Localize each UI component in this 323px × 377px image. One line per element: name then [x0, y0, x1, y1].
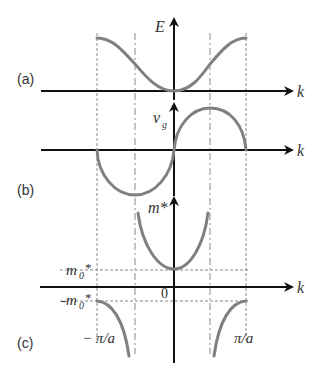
svg-text:0: 0: [79, 300, 84, 311]
m0-star-label: m 0 *: [66, 260, 92, 281]
group-velocity-curve: [97, 108, 246, 195]
neg-pi-over-a-label: − π/a: [82, 330, 115, 346]
k-axis-label-b: k: [297, 142, 305, 159]
band-structure-figure: E k (a) v g k (b) m* k (c) m 0 * -m 0 * …: [0, 0, 323, 377]
panel-c: m* k (c) m 0 * -m 0 * 0 − π/a π/a: [17, 198, 305, 363]
svg-text:*: *: [85, 290, 92, 305]
panel-b: v g k (b): [17, 104, 305, 198]
panel-a: E k (a): [17, 18, 305, 100]
guide-lines: [60, 33, 250, 354]
panel-label-a: (a): [17, 71, 34, 87]
e-axis-label: E: [154, 18, 165, 35]
svg-text:-m: -m: [61, 292, 77, 308]
svg-text:m: m: [66, 262, 77, 278]
energy-curve: [97, 38, 246, 91]
panel-label-c: (c): [17, 335, 33, 351]
vg-axis-subscript: g: [162, 119, 167, 130]
effective-mass-curve-right: [214, 301, 246, 356]
neg-m0-star-label: -m 0 *: [61, 290, 92, 311]
k-axis-label-a: k: [297, 83, 305, 100]
m-star-axis-label: m*: [148, 199, 168, 216]
pi-over-a-label: π/a: [234, 330, 253, 346]
svg-text:*: *: [85, 260, 92, 275]
effective-mass-curve-left: [97, 301, 129, 356]
vg-axis-label: v: [153, 109, 161, 126]
panel-label-b: (b): [17, 182, 34, 198]
svg-text:0: 0: [79, 270, 84, 281]
figure-svg: E k (a) v g k (b) m* k (c) m 0 * -m 0 * …: [0, 0, 323, 377]
origin-label: 0: [161, 286, 168, 301]
k-axis-label-c: k: [297, 279, 305, 296]
